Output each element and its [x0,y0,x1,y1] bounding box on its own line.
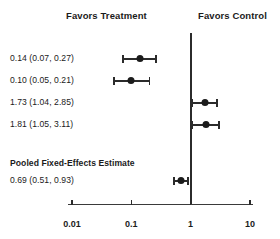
null-effect-reference-line [190,33,192,205]
point-estimate-marker [128,77,135,84]
x-axis-tick-label-10: 10 [245,219,255,229]
study-confidence-interval [192,124,220,125]
study-confidence-interval [122,58,157,59]
favors-treatment-header: Favors Treatment [66,10,147,21]
study-estimate-label: 0.14 (0.07, 0.27) [10,53,74,63]
study-estimate-label: 1.73 (1.04, 2.85) [10,97,74,107]
pooled-confidence-interval [173,180,188,181]
pooled-estimate-label: 0.69 (0.51, 0.93) [10,175,74,185]
x-axis-tick-1 [190,200,191,205]
point-estimate-marker [201,99,208,106]
study-estimate-label: 1.81 (1.05, 3.11) [10,119,73,129]
ci-upper-cap [149,77,150,85]
pooled-point-estimate-marker [178,177,185,184]
pooled-estimate-header: Pooled Fixed-Effects Estimate [10,158,135,168]
ci-upper-cap [218,121,219,129]
x-axis-tick-label-0.1: 0.1 [125,219,138,229]
point-estimate-marker [136,55,143,62]
point-estimate-marker [202,121,209,128]
ci-lower-cap [122,55,123,63]
ci-lower-cap [192,99,193,107]
x-axis-tick-0.01 [71,200,72,205]
x-axis-line [68,204,253,205]
favors-control-header: Favors Control [198,10,267,21]
ci-lower-cap [173,177,174,185]
x-axis-tick-0.1 [131,200,132,205]
ci-upper-cap [187,177,188,185]
ci-lower-cap [113,77,114,85]
study-estimate-label: 0.10 (0.05, 0.21) [10,75,74,85]
ci-upper-cap [216,99,217,107]
forest-plot: Favors Treatment Favors Control 0.010.11… [0,0,280,239]
ci-upper-cap [155,55,156,63]
study-confidence-interval [113,80,150,81]
study-confidence-interval [192,102,218,103]
ci-lower-cap [192,121,193,129]
x-axis-tick-label-1: 1 [188,219,193,229]
x-axis-tick-10 [249,200,250,205]
x-axis-tick-label-0.01: 0.01 [63,219,81,229]
